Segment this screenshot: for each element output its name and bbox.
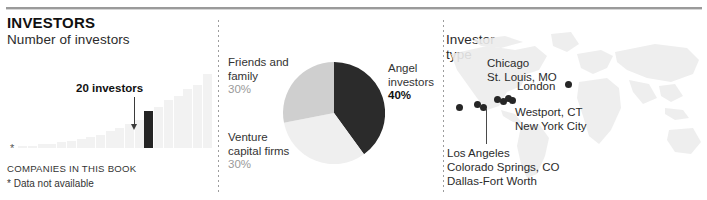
bar-chart-asterisk-marker: * [10, 142, 14, 154]
map-label-group-west: Los Angeles Colorado Springs, CO Dallas-… [447, 146, 560, 188]
map-label-westport: Westport, CT [515, 105, 587, 119]
pie-label-venture-capital-line1: Venture [228, 131, 289, 145]
pie-label-venture-capital-line2: capital firms [228, 145, 289, 159]
pie-label-angel-investors-line2: investors [388, 76, 434, 90]
pie-value-venture-capital: 30% [228, 158, 289, 172]
bar-item [203, 74, 212, 148]
pie-chart-panel: Investor type Friends and family 30% Ang… [218, 0, 443, 200]
bar-item [174, 96, 183, 148]
bar-highlighted [144, 111, 153, 148]
bar-item [164, 100, 173, 148]
pie-slice-friends-family [283, 62, 334, 123]
map-label-london: London [517, 79, 555, 93]
bar-item [18, 146, 27, 148]
bar-item [67, 141, 76, 148]
infographic-panel: INVESTORS Number of investors 20 investo… [0, 0, 707, 200]
map-label-new-york-city: New York City [515, 119, 587, 133]
bar-item [77, 139, 86, 148]
map-label-group-northeast: Westport, CT New York City [515, 105, 587, 133]
bar-item [47, 144, 56, 148]
map-label-chicago: Chicago [487, 56, 557, 70]
map-label-dallas: Dallas-Fort Worth [447, 174, 560, 188]
pie-chart-svg [283, 62, 385, 164]
map-leader-line [486, 108, 487, 144]
map-label-los-angeles: Los Angeles [447, 146, 560, 160]
bar-chart-axis-caption: COMPANIES IN THIS BOOK [7, 163, 136, 174]
bar-chart-callout-arrow [134, 97, 135, 125]
bar-chart-panel: Number of investors 20 investors * COMPA… [0, 0, 218, 200]
bar-item [57, 142, 66, 148]
pie-value-angel-investors: 40% [388, 89, 434, 103]
bar-item [154, 107, 163, 148]
pie-label-friends-family-line2: family [228, 70, 289, 84]
bar-item [193, 85, 202, 148]
map-dot-london [565, 81, 572, 88]
map-label-colorado-springs: Colorado Springs, CO [447, 160, 560, 174]
pie-label-angel-investors: Angel investors 40% [388, 62, 434, 103]
map-dot-los-angeles [456, 104, 463, 111]
map-panel: Primary locations [443, 0, 707, 200]
bar-item [86, 137, 95, 148]
pie-label-friends-family: Friends and family 30% [228, 56, 289, 97]
map-dot-westport [509, 97, 516, 104]
pie-label-angel-investors-line1: Angel [388, 62, 434, 76]
bar-chart-title: Number of investors [7, 32, 130, 47]
bar-item [96, 135, 105, 148]
pie-chart-graphic [283, 62, 385, 164]
pie-value-friends-family: 30% [228, 83, 289, 97]
bar-chart-callout-label: 20 investors [76, 82, 143, 94]
pie-label-friends-family-line1: Friends and [228, 56, 289, 70]
bar-item [28, 146, 37, 148]
pie-label-venture-capital: Venture capital firms 30% [228, 131, 289, 172]
bar-item [183, 89, 192, 148]
bar-item [106, 131, 115, 148]
bar-chart-footnote: * Data not available [7, 178, 94, 189]
bar-item [115, 128, 124, 148]
bar-item [38, 144, 47, 148]
